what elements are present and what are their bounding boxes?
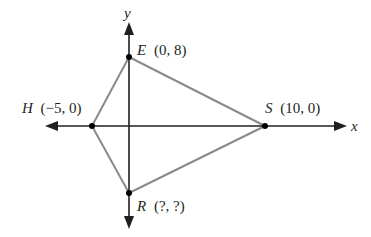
- x-axis-label: x: [350, 118, 358, 134]
- label-h-name: H: [21, 100, 34, 116]
- label-r-coords: (?, ?): [154, 198, 185, 215]
- edge-s-r: [129, 126, 265, 193]
- y-axis-up-arrow-icon: [124, 22, 134, 35]
- edge-r-h: [92, 126, 129, 193]
- y-axis-down-arrow-icon: [124, 216, 134, 229]
- label-s-coords: (10, 0): [280, 100, 320, 117]
- label-s: S (10, 0): [265, 100, 320, 117]
- edge-h-e: [92, 57, 129, 126]
- label-s-name: S: [265, 100, 273, 116]
- point-s: [262, 123, 268, 129]
- label-r-name: R: [136, 198, 146, 214]
- diagram-svg: x y E (0, 8) H (−5, 0) S (10, 0) R (?, ?…: [0, 0, 371, 237]
- label-e-coords: (0, 8): [154, 42, 187, 59]
- quadrilateral-kite: [92, 57, 265, 193]
- label-e: E (0, 8): [136, 42, 186, 59]
- label-e-name: E: [136, 42, 146, 58]
- label-r: R (?, ?): [136, 198, 185, 215]
- label-h: H (−5, 0): [21, 100, 82, 117]
- label-h-coords: (−5, 0): [41, 100, 82, 117]
- axes: [52, 30, 340, 222]
- point-r: [126, 190, 132, 196]
- point-h: [89, 123, 95, 129]
- vertices: [89, 54, 268, 196]
- edge-e-s: [129, 57, 265, 126]
- coordinate-diagram: x y E (0, 8) H (−5, 0) S (10, 0) R (?, ?…: [0, 0, 371, 237]
- x-axis-right-arrow-icon: [334, 121, 347, 131]
- y-axis-label: y: [122, 5, 131, 21]
- x-axis-left-arrow-icon: [45, 121, 58, 131]
- point-e: [126, 54, 132, 60]
